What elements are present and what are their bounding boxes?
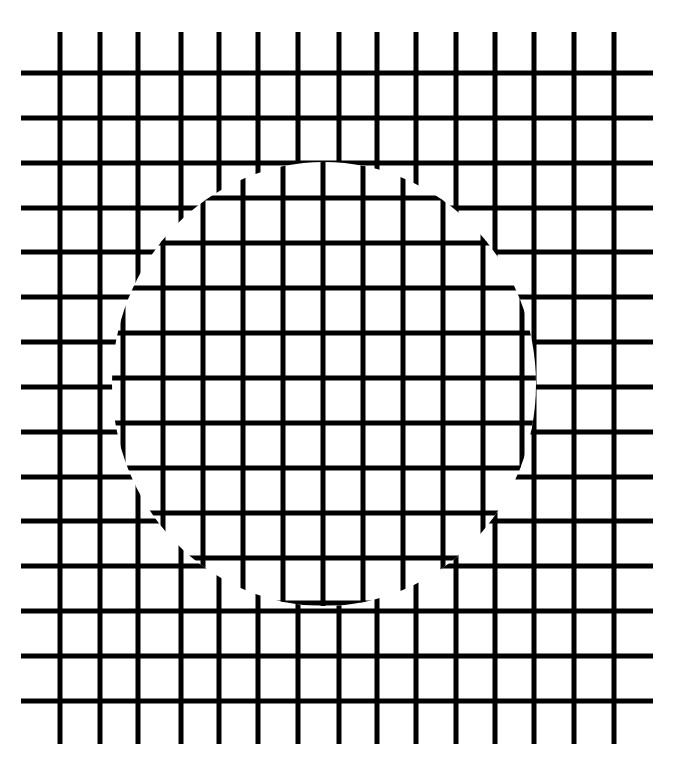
illusion-figure: Grid illusion with offset circular patch <box>0 0 677 764</box>
grid-canvas <box>0 0 677 764</box>
